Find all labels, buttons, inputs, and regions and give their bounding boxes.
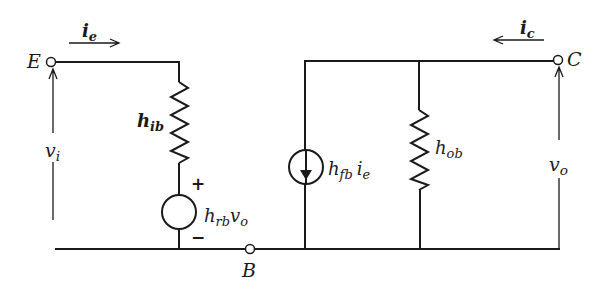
- wire-collector-top: [305, 61, 555, 249]
- collector-label: C: [567, 50, 582, 69]
- input-current-label: ie: [82, 22, 97, 44]
- hfb-ie-label: hfbie: [328, 160, 370, 182]
- minus-sign: −: [191, 229, 205, 246]
- plus-sign: +: [191, 176, 205, 193]
- ic-arrow-icon: [494, 36, 544, 44]
- base-label: B: [242, 261, 256, 280]
- output-current-label: ic: [520, 19, 535, 41]
- hib-label: hib: [137, 112, 164, 134]
- emitter-label: E: [27, 52, 41, 71]
- voltage-source-icon: [162, 195, 196, 229]
- input-voltage-label: vi: [45, 141, 60, 164]
- wire-emitter-top: [56, 62, 179, 82]
- collector-terminal-icon: [554, 56, 563, 65]
- hob-label: hob: [435, 139, 463, 161]
- emitter-terminal-icon: [47, 58, 56, 67]
- output-voltage-label: vo: [549, 155, 568, 178]
- base-terminal-icon: [246, 245, 255, 254]
- hrb-vo-label: hrbvo: [204, 207, 248, 229]
- circuit-diagram: E C B ie ic vi vo hib hrbvo + − hfbie ho…: [0, 0, 610, 291]
- resistor-hib-icon: [171, 82, 188, 163]
- resistor-hob-icon: [411, 110, 428, 190]
